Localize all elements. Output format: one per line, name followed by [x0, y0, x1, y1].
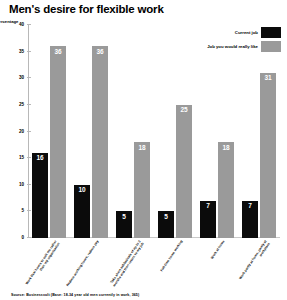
bar-value-label: 36 — [97, 49, 104, 56]
y-axis-tick-label: 20 — [19, 128, 24, 133]
y-axis-tick-label: 15 — [19, 155, 24, 160]
y-axis-tick-label: 25 — [19, 101, 24, 106]
bar: 16 — [32, 153, 48, 238]
x-axis-category-labels: Work flexi hours to suit me rather than … — [28, 240, 280, 288]
bar: 18 — [218, 142, 234, 238]
y-axis-tick-label: 0 — [21, 235, 24, 240]
x-axis-category-label: Work partly at home, partly at workplace — [233, 240, 272, 292]
bar-value-label: 10 — [79, 187, 86, 194]
bar: 5 — [116, 211, 132, 238]
bar-group: 518 — [112, 25, 154, 238]
bar-group-container: 16361036518525718731 — [28, 25, 280, 238]
y-axis-tick-label: 5 — [21, 208, 24, 213]
bar: 36 — [50, 46, 66, 238]
bar: 18 — [134, 142, 150, 238]
bar-value-label: 18 — [223, 145, 230, 152]
y-axis-tick-label: 30 — [19, 75, 24, 80]
chart-container: Men's desire for flexible work percentag… — [0, 0, 287, 300]
y-axis-tick-label: 10 — [19, 181, 24, 186]
bar: 25 — [176, 105, 192, 238]
source-note: Source: Businessvolt (Base: 18-34 year o… — [11, 293, 139, 297]
x-axis-category-label: Work at home — [191, 240, 227, 290]
chart-title: Men's desire for flexible work — [9, 3, 164, 15]
bar-value-label: 16 — [37, 155, 44, 162]
bar-value-label: 18 — [139, 145, 146, 152]
x-axis-category-label: Work flexi hours to suit me rather than … — [23, 240, 62, 292]
bar-group: 718 — [196, 25, 238, 238]
bar: 31 — [260, 73, 276, 238]
bar: 10 — [74, 185, 90, 238]
bar-group: 731 — [238, 25, 280, 238]
bar-value-label: 25 — [181, 107, 188, 114]
bar: 5 — [158, 211, 174, 238]
bar-value-label: 7 — [206, 203, 209, 210]
x-axis-category-label: Take short sabbaticals of up to 3 months… — [107, 240, 146, 292]
bar: 7 — [200, 201, 216, 238]
y-axis-tick-label: 40 — [19, 22, 24, 27]
bar-value-label: 5 — [122, 214, 125, 221]
bar-group: 525 — [154, 25, 196, 238]
bar-group: 1636 — [28, 25, 70, 238]
bar-value-label: 36 — [55, 49, 62, 56]
x-axis-category-label: Reduce working hours, reduce pay — [65, 240, 101, 290]
bar-value-label: 31 — [265, 75, 272, 82]
bar-value-label: 7 — [248, 203, 251, 210]
bar-value-label: 5 — [164, 214, 167, 221]
bar: 36 — [92, 46, 108, 238]
plot-area: 0510152025303540 16361036518525718731 — [28, 25, 280, 238]
bar-group: 1036 — [70, 25, 112, 238]
y-axis-tick-label: 35 — [19, 48, 24, 53]
x-axis-category-label: Full-time home working — [149, 240, 185, 290]
y-axis-title: percentage — [0, 19, 18, 24]
bar: 7 — [242, 201, 258, 238]
